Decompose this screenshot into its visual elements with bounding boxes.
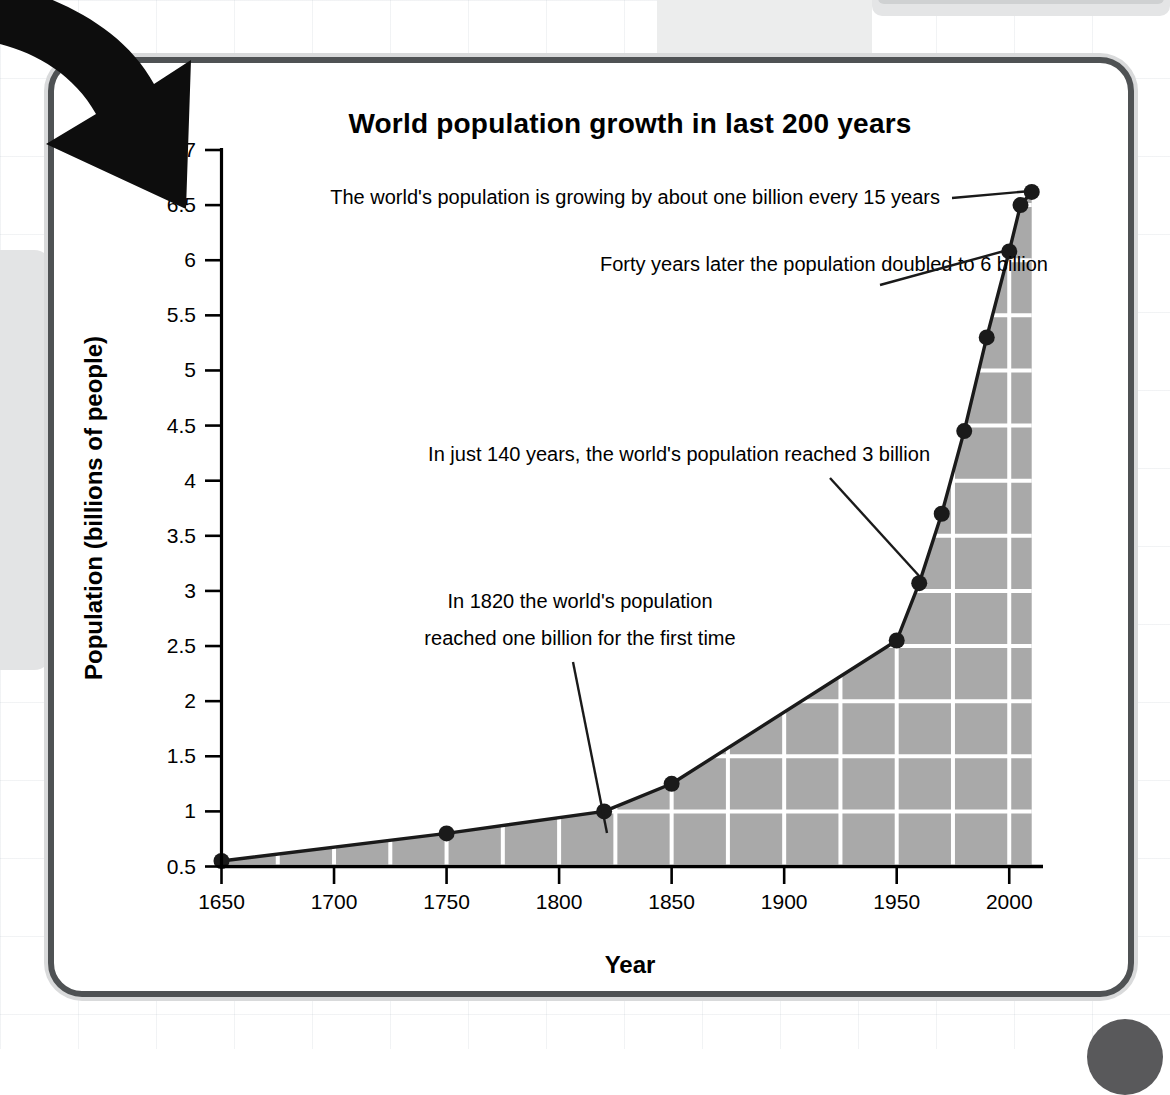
y-axis-tick-label: 0.5	[167, 855, 196, 878]
data-point-marker	[889, 633, 905, 649]
y-axis-tick-label: 1	[184, 799, 196, 822]
annotation-3-billion-leader	[830, 478, 921, 578]
corner-dot-badge	[1087, 1019, 1163, 1095]
data-point-marker	[979, 329, 995, 345]
y-axis-tick-label: 3.5	[167, 524, 196, 547]
x-axis-tick-label: 1900	[761, 890, 808, 913]
chart-title: World population growth in last 200 year…	[348, 108, 911, 139]
data-point-marker	[956, 423, 972, 439]
annotation-15-years-leader	[952, 191, 1031, 198]
y-axis-tick-label: 2.5	[167, 634, 196, 657]
annotation-1820-label-line1: In 1820 the world's population	[447, 590, 712, 612]
x-axis-ticks: 16501700175018001850190019502000	[198, 866, 1032, 913]
y-axis-title: Population (billions of people)	[80, 336, 107, 680]
annotation-1820-label-line2: reached one billion for the first time	[424, 627, 735, 649]
area-fill	[222, 192, 1032, 867]
annotation-1820-leader	[573, 662, 607, 833]
x-axis-tick-label: 2000	[986, 890, 1033, 913]
y-axis-tick-label: 4	[184, 469, 196, 492]
data-point-marker	[439, 825, 455, 841]
x-axis-tick-label: 1950	[873, 890, 920, 913]
x-axis-tick-label: 1800	[536, 890, 583, 913]
y-axis-tick-label: 2	[184, 689, 196, 712]
annotation-15-years-label: The world's population is growing by abo…	[330, 186, 940, 208]
y-axis-tick-label: 5	[184, 358, 196, 381]
y-axis-tick-label: 3	[184, 579, 196, 602]
x-axis-tick-label: 1700	[311, 890, 358, 913]
decorative-arrow-icon	[0, 0, 236, 269]
x-axis-title: Year	[605, 951, 656, 978]
x-axis-tick-label: 1750	[423, 890, 470, 913]
data-point-marker	[934, 506, 950, 522]
y-axis-tick-label: 4.5	[167, 414, 196, 437]
y-axis-tick-label: 1.5	[167, 744, 196, 767]
x-axis-tick-label: 1650	[198, 890, 245, 913]
y-axis-tick-label: 5.5	[167, 303, 196, 326]
data-point-marker	[1012, 197, 1028, 213]
annotation-3-billion-label: In just 140 years, the world's populatio…	[428, 443, 930, 465]
x-axis-tick-label: 1850	[648, 890, 695, 913]
data-point-marker	[664, 776, 680, 792]
